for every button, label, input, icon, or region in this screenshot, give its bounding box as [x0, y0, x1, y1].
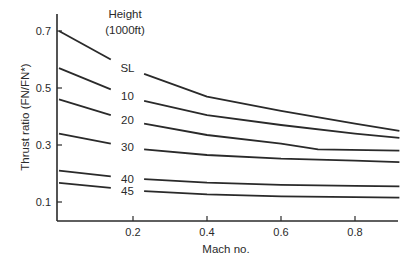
- series-line-40: [144, 179, 399, 186]
- series-label-sl: SL: [120, 62, 135, 74]
- x-tick-label: 0.8: [347, 226, 362, 238]
- series-labels: SL1020304045: [120, 62, 135, 197]
- series-line-10: [59, 68, 111, 89]
- y-axis: 0.10.30.50.7 Thrust ratio (FN/FN*): [19, 14, 62, 221]
- legend-title-line-1: Height: [108, 8, 142, 20]
- series-line-30: [59, 134, 111, 144]
- series-line-45: [59, 183, 111, 188]
- series-line-20: [144, 124, 399, 151]
- thrust-ratio-chart: 0.10.30.50.7 Thrust ratio (FN/FN*) 0.20.…: [0, 0, 419, 264]
- x-tick-label: 0.6: [273, 226, 288, 238]
- x-axis-title: Mach no.: [202, 243, 249, 255]
- y-tick-label: 0.3: [36, 139, 51, 151]
- y-axis-title: Thrust ratio (FN/FN*): [19, 63, 31, 171]
- y-tick-label: 0.1: [36, 196, 51, 208]
- legend-title: Height (1000ft): [105, 8, 145, 36]
- series-line-sl: [144, 74, 399, 131]
- series-line-40: [59, 171, 111, 177]
- series-label-30: 30: [121, 141, 134, 153]
- y-ticks: 0.10.30.50.7: [36, 25, 62, 208]
- series-line-10: [144, 101, 399, 138]
- series-line-30: [144, 149, 399, 162]
- series-line-sl: [59, 31, 111, 60]
- y-tick-label: 0.7: [36, 25, 51, 37]
- series-label-40: 40: [121, 173, 134, 185]
- series-label-10: 10: [121, 90, 134, 102]
- series-lines: [59, 31, 399, 198]
- series-line-20: [59, 99, 111, 115]
- legend-title-line-2: (1000ft): [105, 24, 145, 36]
- series-label-20: 20: [121, 114, 134, 126]
- x-axis: 0.20.40.60.8 Mach no.: [57, 216, 398, 255]
- y-tick-label: 0.5: [36, 82, 51, 94]
- x-tick-label: 0.4: [199, 226, 214, 238]
- series-line-45: [144, 191, 399, 198]
- series-label-45: 45: [121, 185, 134, 197]
- x-ticks: 0.20.40.60.8: [125, 216, 362, 238]
- x-tick-label: 0.2: [125, 226, 140, 238]
